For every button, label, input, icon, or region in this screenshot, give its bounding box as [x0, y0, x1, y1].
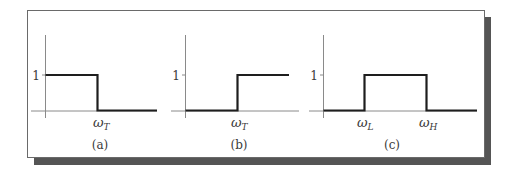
panel-caption: (b): [230, 138, 247, 152]
panel-caption: (a): [92, 138, 109, 152]
panel-caption: (c): [384, 138, 400, 152]
figure-frame: [28, 11, 485, 158]
frame-shadow-right: [484, 17, 491, 165]
frame-shadow-bottom: [34, 157, 491, 165]
filter-response-figure: 1 ωT (a) 1 ωT (b) 1 ωL ωH (c): [0, 0, 514, 181]
y-tick-label: 1: [310, 69, 318, 83]
y-tick-label: 1: [172, 69, 180, 83]
y-tick-label: 1: [32, 69, 40, 83]
